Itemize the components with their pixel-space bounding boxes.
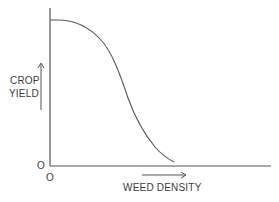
x-arrow-icon [142, 172, 186, 178]
crop-yield-diagram: CROP YIELD WEED DENSITY O O [0, 0, 279, 202]
y-arrow-icon [38, 63, 44, 110]
y-origin-label: O [37, 161, 45, 171]
x-axis-label: WEED DENSITY [123, 183, 202, 193]
y-axis-label-yield: YIELD [9, 89, 39, 99]
x-origin-label: O [46, 173, 54, 183]
yield-curve [50, 20, 174, 162]
y-axis-label-crop: CROP [10, 76, 40, 86]
